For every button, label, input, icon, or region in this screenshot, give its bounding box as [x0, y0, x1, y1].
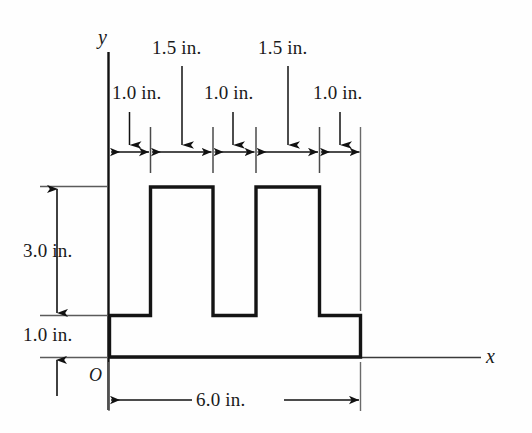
x-axis-label: x	[486, 345, 495, 368]
dim-label-1p5-a: 1.5 in.	[152, 37, 201, 59]
section-outline	[110, 187, 361, 357]
diagram-svg	[0, 0, 532, 433]
dim-label-3p0: 3.0 in.	[23, 240, 72, 262]
figure-canvas: y x O 1.5 in. 1.5 in. 1.0 in. 1.0 in. 1.…	[0, 0, 532, 433]
origin-label: O	[89, 365, 102, 386]
dim-label-1p5-b: 1.5 in.	[258, 37, 307, 59]
dim-label-1p0-vertical: 1.0 in.	[23, 324, 72, 346]
dim-label-1p0-c: 1.0 in.	[313, 82, 362, 104]
dim-label-1p0-a: 1.0 in.	[112, 82, 161, 104]
dim-label-1p0-b: 1.0 in.	[204, 82, 253, 104]
y-axis-label: y	[98, 26, 107, 49]
dim-label-6p0: 6.0 in.	[196, 389, 245, 411]
